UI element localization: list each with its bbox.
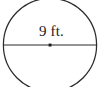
diameter-label: 9 ft. xyxy=(0,23,103,39)
circle-outline xyxy=(3,0,96,87)
geometry-diagram-canvas xyxy=(0,0,103,87)
center-point-dot xyxy=(49,44,52,47)
circle-diameter-figure: 9 ft. xyxy=(0,0,103,87)
